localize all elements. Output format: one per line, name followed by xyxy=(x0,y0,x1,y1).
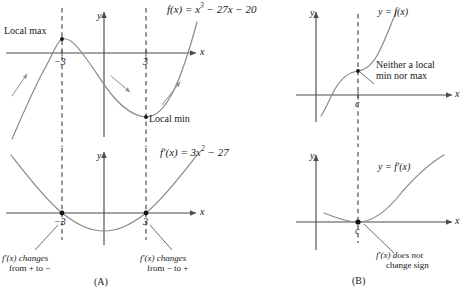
panel-a-top-y-axis-label: y xyxy=(97,10,101,21)
panel-a-bottom-graph xyxy=(6,148,197,250)
panel-a-top-x-axis-label: x xyxy=(200,46,204,57)
panel-a-local-min-point xyxy=(144,115,148,119)
panel-a-local-max-label: Local max xyxy=(4,25,46,36)
panel-b-top-leader xyxy=(360,72,374,84)
panel-b-bottom-y-axis-label: y xyxy=(310,150,314,161)
panel-a-bottom-tick-label-neg3: −3 xyxy=(54,216,66,227)
panel-b-annotation-nosign: f′(x) does not change sign xyxy=(376,250,429,270)
panel-a-caption: (A) xyxy=(94,276,108,287)
panel-a-annotation-left-line2: from + to − xyxy=(2,263,50,273)
figure-root: f(x) = x3 − 27x − 20 Local max Local min… xyxy=(0,0,462,294)
panel-a-annotation-right-line1: f′(x) changes xyxy=(140,253,188,263)
panel-b-bottom-graph xyxy=(296,152,452,253)
panel-a-derivative-label: f′(x) = 3x2 − 27 xyxy=(160,146,229,158)
panel-b-tangent-point xyxy=(355,219,360,224)
panel-b-annotation-neither-line2: min nor max xyxy=(376,70,435,81)
panel-a-top-tick-label-pos3: 3 xyxy=(143,56,148,67)
panel-a-direction-arrow-decreasing-middle xyxy=(111,76,130,92)
panel-a-local-max-point xyxy=(60,37,64,41)
panel-a-root-point-pos3 xyxy=(144,211,149,216)
panel-b-top-x-axis-label: x xyxy=(455,88,459,99)
panel-a-direction-arrow-increasing-right xyxy=(162,82,180,105)
panel-a-bottom-x-axis-label: x xyxy=(200,206,204,217)
panel-a-leader-right xyxy=(150,225,172,250)
panel-a-bottom-tick-label-pos3: 3 xyxy=(143,216,148,227)
panel-a-top-tick-label-neg3: −3 xyxy=(54,56,66,67)
panel-a-root-point-neg3 xyxy=(60,211,65,216)
panel-b-annotation-nosign-line1: f′(x) does not xyxy=(376,250,429,260)
panel-b-bottom-tick-label-c: c xyxy=(355,225,359,236)
panel-b-bottom-x-axis-label: x xyxy=(455,215,459,226)
panel-b-top-y-axis-label: y xyxy=(310,7,314,18)
panel-b-annotation-neither: Neither a local min nor max xyxy=(376,59,435,81)
panel-b-top-tick-label-c: c xyxy=(355,98,359,109)
panel-a-leader-left xyxy=(35,225,58,250)
panel-a-bottom-y-axis-label: y xyxy=(97,150,101,161)
panel-a-annotation-left: f′(x) changes from + to − xyxy=(2,253,50,273)
panel-a-local-min-label: Local min xyxy=(149,113,190,124)
panel-a-annotation-right-line2: from − to + xyxy=(140,263,188,273)
panel-b-inflection-point xyxy=(356,69,360,73)
panel-b-caption: (B) xyxy=(352,275,365,286)
panel-b-derivative-label: y = f′(x) xyxy=(378,161,410,172)
panel-b-function-label: y = f(x) xyxy=(378,6,408,17)
panel-a-annotation-right: f′(x) changes from − to + xyxy=(140,253,188,273)
panel-b-annotation-neither-line1: Neither a local xyxy=(376,59,435,70)
panel-b-annotation-nosign-line2: change sign xyxy=(376,260,429,270)
panel-a-annotation-left-line1: f′(x) changes xyxy=(2,253,50,263)
panel-b-bottom-leader xyxy=(364,224,394,253)
panel-a-function-label: f(x) = x3 − 27x − 20 xyxy=(167,3,257,15)
panel-a-direction-arrow-increasing-left xyxy=(12,74,27,96)
